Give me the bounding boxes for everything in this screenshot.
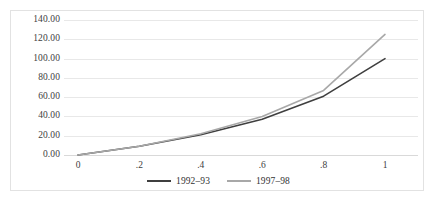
series-line	[78, 34, 385, 155]
legend-entry[interactable]: 1992–93	[147, 176, 210, 186]
chart-legend: 1992–931997–98	[0, 176, 437, 186]
legend-label: 1997–98	[256, 176, 290, 186]
legend-line-swatch	[147, 180, 171, 182]
series-plot-area	[0, 0, 437, 201]
series-line	[78, 59, 385, 155]
chart-container: 0.0020.0040.0060.0080.00100.00120.00140.…	[0, 0, 437, 201]
legend-line-swatch	[227, 180, 251, 182]
legend-entry[interactable]: 1997–98	[227, 176, 290, 186]
legend-label: 1992–93	[176, 176, 210, 186]
